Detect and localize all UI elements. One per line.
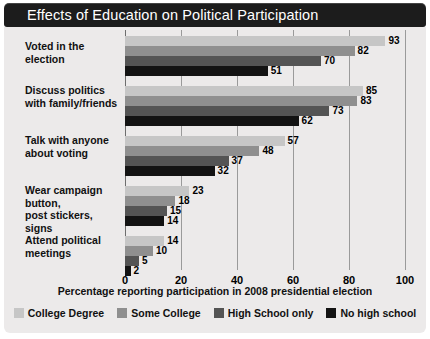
category-label-line: Talk with anyone <box>25 134 121 147</box>
title-bar: Effects of Education on Political Partic… <box>4 3 426 27</box>
category-label-line: Voted in the election <box>25 40 121 65</box>
legend-swatch-icon <box>117 308 127 318</box>
page-title: Effects of Education on Political Partic… <box>27 7 318 23</box>
bar-value-label: 51 <box>271 64 282 78</box>
chart-panel: 0204060801009382705185837362574837322318… <box>4 27 426 333</box>
category-label-line: with family/friends <box>25 97 121 110</box>
chart-legend: College DegreeSome CollegeHigh School on… <box>4 307 426 319</box>
category-label-line: post stickers, signs <box>25 209 121 234</box>
category-label-line: Attend political <box>25 234 121 247</box>
legend-swatch-icon <box>326 308 336 318</box>
bar-row: 5 <box>125 256 405 266</box>
bar <box>125 116 299 126</box>
category-label-line: Discuss politics <box>25 84 121 97</box>
legend-label: High School only <box>228 307 314 319</box>
bar-row: 48 <box>125 146 405 156</box>
bar-row: 18 <box>125 196 405 206</box>
legend-item-0[interactable]: College Degree <box>14 307 104 319</box>
bar-row: 83 <box>125 96 405 106</box>
bar <box>125 66 268 76</box>
legend-item-3[interactable]: No high school <box>326 307 416 319</box>
bar <box>125 156 229 166</box>
legend-swatch-icon <box>14 308 24 318</box>
bar-value-label: 14 <box>167 214 178 228</box>
chart-card: Effects of Education on Political Partic… <box>0 0 430 339</box>
bar-row: 73 <box>125 106 405 116</box>
gridline-100 <box>405 30 406 270</box>
bar <box>125 246 153 256</box>
category-label: Attend politicalmeetings <box>25 234 121 259</box>
legend-label: College Degree <box>28 307 104 319</box>
bar <box>125 166 215 176</box>
bar-row: 62 <box>125 116 405 126</box>
bar-row: 82 <box>125 46 405 56</box>
bar-row: 2 <box>125 266 405 276</box>
bar <box>125 36 385 46</box>
legend-label: Some College <box>131 307 200 319</box>
bar <box>125 206 167 216</box>
bar <box>125 136 285 146</box>
category-label: Wear campaign button,post stickers, sign… <box>25 184 121 234</box>
bar <box>125 196 175 206</box>
bar <box>125 56 321 66</box>
bar <box>125 266 131 276</box>
legend-item-2[interactable]: High School only <box>214 307 314 319</box>
bar-row: 37 <box>125 156 405 166</box>
bar-row: 51 <box>125 66 405 76</box>
bar-value-label: 2 <box>134 264 140 278</box>
legend-swatch-icon <box>214 308 224 318</box>
bar <box>125 96 357 106</box>
bar-row: 14 <box>125 216 405 226</box>
plot-area: 0204060801009382705185837362574837322318… <box>125 30 405 270</box>
category-label-line: meetings <box>25 247 121 260</box>
bar-row: 70 <box>125 56 405 66</box>
bar-value-label: 32 <box>218 164 229 178</box>
category-label-line: about voting <box>25 147 121 160</box>
bar <box>125 106 329 116</box>
legend-label: No high school <box>340 307 416 319</box>
x-axis-title: Percentage reporting participation in 20… <box>4 285 426 297</box>
bar <box>125 216 164 226</box>
bar <box>125 86 363 96</box>
legend-item-1[interactable]: Some College <box>117 307 200 319</box>
category-label: Voted in the election <box>25 40 121 65</box>
bar-row: 32 <box>125 166 405 176</box>
bar-value-label: 62 <box>302 114 313 128</box>
category-label: Discuss politicswith family/friends <box>25 84 121 109</box>
bar <box>125 46 355 56</box>
bar-row: 23 <box>125 186 405 196</box>
category-label: Talk with anyoneabout voting <box>25 134 121 159</box>
bar-row: 10 <box>125 246 405 256</box>
category-label-line: Wear campaign button, <box>25 184 121 209</box>
